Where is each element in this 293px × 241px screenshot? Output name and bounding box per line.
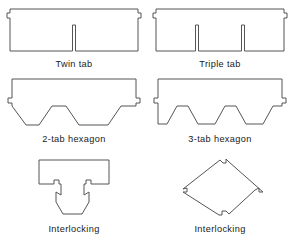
two-tab-hexagon-shape [4, 76, 144, 128]
shingle-shapes-figure: Twin tab Triple tab 2-tab hexagon 3-tab … [0, 0, 293, 241]
three-tab-hexagon-shape [150, 76, 290, 128]
figure-cell-2-tab-hexagon: 2-tab hexagon [0, 76, 148, 144]
figure-cell-3-tab-hexagon: 3-tab hexagon [147, 76, 293, 144]
interlocking-t-shape [19, 157, 129, 219]
triple-tab-shape [150, 6, 290, 54]
figure-cell-interlocking-diamond: Interlocking [147, 157, 293, 234]
twin-tab-shape [4, 6, 144, 54]
interlocking-diamond-shape [162, 157, 278, 219]
two-tab-hexagon-caption: 2-tab hexagon [42, 135, 105, 144]
figure-cell-interlocking-t: Interlocking [0, 157, 148, 234]
twin-tab-caption: Twin tab [55, 60, 92, 69]
figure-cell-twin-tab: Twin tab [0, 6, 148, 69]
interlocking-diamond-caption: Interlocking [194, 225, 245, 234]
three-tab-hexagon-caption: 3-tab hexagon [188, 135, 251, 144]
interlocking-t-caption: Interlocking [48, 225, 99, 234]
figure-cell-triple-tab: Triple tab [147, 6, 293, 69]
triple-tab-caption: Triple tab [199, 60, 240, 69]
